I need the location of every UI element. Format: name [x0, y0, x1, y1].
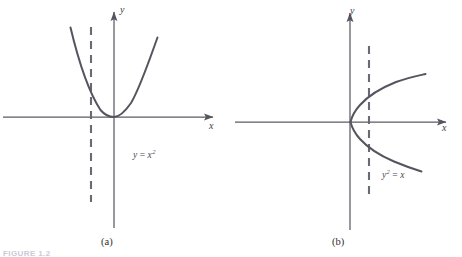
- y-axis-label-a: y: [120, 4, 124, 15]
- x-axis-label-a: x: [209, 120, 213, 131]
- panel-b: y x y2 = x (b): [231, 0, 462, 257]
- curve-lower-branch-b: [351, 122, 422, 172]
- panel-caption-a: (a): [101, 236, 113, 247]
- equation-label-a: y = x2: [133, 150, 156, 160]
- x-axis-label-b: x: [442, 122, 446, 133]
- equation-label-b: y2 = x: [382, 170, 405, 180]
- figure-caption: FIGURE 1.2: [3, 249, 51, 257]
- equation-a-rhs-exponent: 2: [152, 148, 156, 155]
- curve-upper-branch-b: [351, 74, 426, 122]
- panel-caption-b: (b): [332, 236, 344, 247]
- panel-a: y x y = x2 (a): [0, 0, 231, 257]
- y-axis-label-b: y: [350, 5, 354, 16]
- equation-b-rhs: x: [400, 170, 405, 180]
- plot-a: [0, 0, 231, 257]
- figure-root: y x y = x2 (a): [0, 0, 462, 257]
- plot-b: [231, 0, 462, 257]
